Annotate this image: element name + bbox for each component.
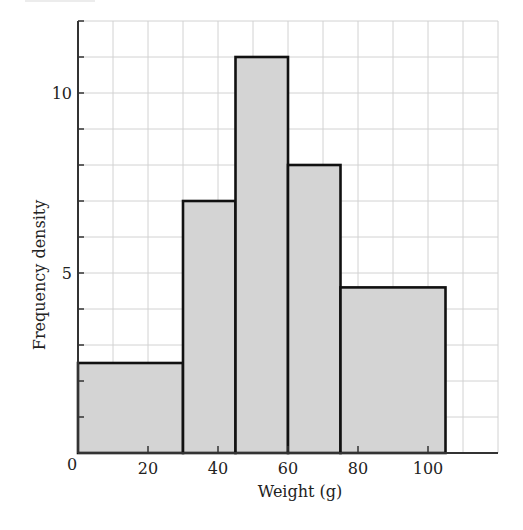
x-axis-title: Weight (g) bbox=[258, 482, 343, 501]
histogram-chart: 020406080100 510 Weight (g) Frequency de… bbox=[0, 0, 523, 530]
x-tick-label: 40 bbox=[208, 459, 228, 478]
histogram-bar bbox=[288, 165, 341, 453]
histogram-bar bbox=[341, 287, 446, 453]
x-tick-label: 80 bbox=[348, 459, 368, 478]
histogram-bar bbox=[236, 57, 289, 453]
x-tick-label: 100 bbox=[413, 459, 444, 478]
x-tick-label: 20 bbox=[138, 459, 158, 478]
x-axis-ticks: 020406080100 bbox=[67, 455, 443, 478]
histogram-bars bbox=[78, 57, 446, 453]
histogram-bar bbox=[78, 363, 183, 453]
y-tick-label: 5 bbox=[62, 264, 72, 283]
x-tick-label: 0 bbox=[67, 455, 77, 474]
y-axis-ticks: 510 bbox=[52, 84, 72, 283]
histogram-bar bbox=[183, 201, 236, 453]
y-axis-title: Frequency density bbox=[30, 200, 49, 350]
x-tick-label: 60 bbox=[278, 459, 298, 478]
y-tick-label: 10 bbox=[52, 84, 72, 103]
